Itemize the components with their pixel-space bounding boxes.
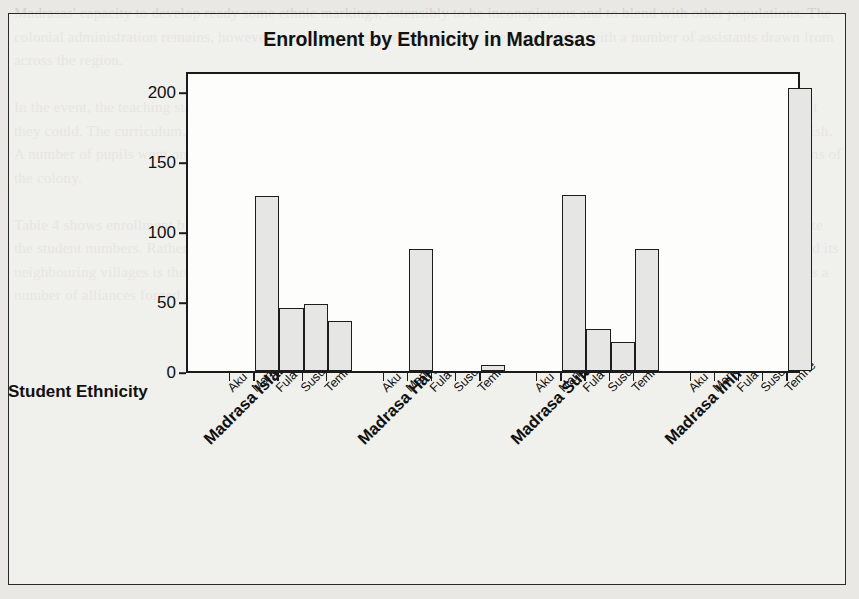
bar bbox=[562, 195, 586, 371]
y-tick-label: 100 bbox=[120, 223, 176, 243]
chart-title: Enrollment by Ethnicity in Madrasas bbox=[0, 28, 859, 51]
y-tick-label: 50 bbox=[120, 293, 176, 313]
y-tick-label: 200 bbox=[120, 83, 176, 103]
bar bbox=[611, 342, 635, 371]
y-tick-mark bbox=[179, 302, 186, 304]
y-tick-mark bbox=[179, 232, 186, 234]
bar bbox=[279, 308, 303, 371]
y-tick-mark bbox=[179, 92, 186, 94]
plot-area bbox=[186, 72, 800, 373]
bar bbox=[255, 196, 279, 371]
bar-chart-figure: Enrollment by Ethnicity in Madrasas Stud… bbox=[0, 0, 859, 599]
x-axis-title: Student Ethnicity bbox=[8, 382, 148, 402]
y-tick-label: 150 bbox=[120, 153, 176, 173]
bars-container bbox=[188, 74, 798, 371]
bar bbox=[304, 304, 328, 371]
bar bbox=[481, 365, 505, 371]
y-tick-mark bbox=[179, 372, 186, 374]
y-tick-mark bbox=[179, 162, 186, 164]
bar bbox=[328, 321, 352, 371]
bar bbox=[409, 249, 433, 371]
y-tick-label: 0 bbox=[120, 363, 176, 383]
bar bbox=[586, 329, 610, 371]
bar bbox=[788, 88, 812, 371]
bar bbox=[635, 249, 659, 371]
